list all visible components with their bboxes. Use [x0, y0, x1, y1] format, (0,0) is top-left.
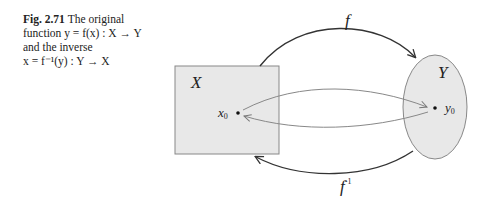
point-y0 — [433, 106, 437, 110]
point-x0 — [236, 111, 240, 115]
set-x-label: X — [190, 73, 202, 92]
set-y-label: Y — [438, 63, 449, 82]
forward-map-arrow — [260, 28, 415, 66]
forward-map-label: f — [345, 11, 352, 30]
mapping-diagram: X Y x0 y0 f f-1 — [0, 0, 491, 211]
inverse-map-arrow — [256, 151, 413, 174]
inverse-map-label: f-1 — [340, 177, 351, 196]
